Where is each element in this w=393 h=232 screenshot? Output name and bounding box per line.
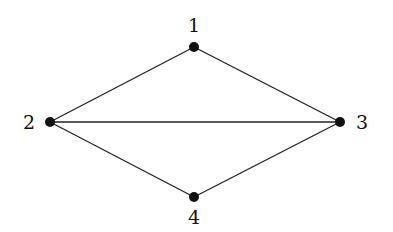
graph-diagram: 1 2 3 4	[0, 0, 393, 232]
edge-3-4	[194, 122, 340, 197]
node-4	[189, 192, 199, 202]
node-3	[335, 117, 345, 127]
edge-1-2	[50, 47, 194, 122]
edge-1-3	[194, 47, 340, 122]
node-1	[189, 42, 199, 52]
edge-2-4	[50, 122, 194, 197]
node-label-3: 3	[356, 111, 368, 133]
node-label-2: 2	[23, 111, 35, 133]
edges	[50, 47, 340, 197]
node-label-1: 1	[188, 14, 200, 36]
node-2	[45, 117, 55, 127]
node-label-4: 4	[188, 206, 200, 228]
